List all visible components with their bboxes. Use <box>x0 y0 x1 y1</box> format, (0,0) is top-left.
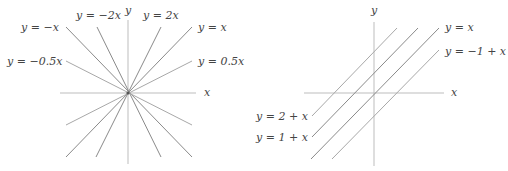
label-y-eq-neg-x: y = −x <box>20 21 60 34</box>
label-y-eq-2-plus-x: y = 2 + x <box>255 110 309 123</box>
label-y-eq-1-plus-x: y = 1 + x <box>255 131 309 144</box>
origin-point <box>126 91 129 94</box>
label-y-eq-neg-0.5x: y = −0.5x <box>6 55 63 68</box>
label-y-eq-neg-2x: y = −2x <box>75 9 122 22</box>
label-y-eq-2x: y = 2x <box>142 9 179 22</box>
line-y-eq-neg1-plus-x <box>332 50 439 159</box>
left-x-label: x <box>204 86 211 99</box>
label-y-eq-0.5x: y = 0.5x <box>197 55 245 68</box>
label-right-y-eq-x: y = x <box>444 21 474 34</box>
left-y-label: y <box>124 4 132 17</box>
left-plot: x y y = −x y = −2x y = 2x y = x y = −0.5… <box>6 4 245 164</box>
label-y-eq-neg1-plus-x: y = −1 + x <box>444 45 507 58</box>
right-y-label: y <box>370 4 378 17</box>
line-y-eq-2-plus-x <box>312 28 397 116</box>
right-x-label: x <box>451 86 458 99</box>
line-y-eq-1-plus-x <box>312 28 418 137</box>
label-y-eq-x: y = x <box>197 21 227 34</box>
right-plot: x y y = x y = −1 + x y = 2 + x y = 1 + x <box>255 4 507 166</box>
figure: x y y = −x y = −2x y = 2x y = x y = −0.5… <box>0 0 508 171</box>
